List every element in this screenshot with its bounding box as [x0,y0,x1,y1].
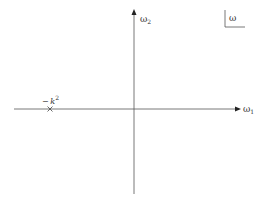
complex-plane-diagram: ω2 ω1 ω − k2 [0,0,266,204]
point-label-sign: − [42,97,49,106]
point-label-neg-k-squared: − k2 [42,93,59,106]
plane-label: ω [229,14,236,23]
point-label-exponent: 2 [55,94,59,101]
imag-axis-arrow-icon [132,9,137,15]
imag-axis-label: ω2 [140,15,151,26]
real-axis-label: ω1 [243,105,254,116]
plane-symbol: ω [229,13,236,23]
imag-axis-subscript: 2 [147,18,151,25]
real-axis-subscript: 1 [250,108,254,115]
real-axis-arrow-icon [235,107,241,112]
axes-graphic [0,0,266,204]
